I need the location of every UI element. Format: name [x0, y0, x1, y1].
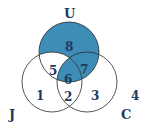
set-label-u: U — [64, 6, 76, 21]
set-label-j: J — [8, 107, 15, 122]
region-2-label: 2 — [64, 90, 72, 104]
region-5-label: 5 — [49, 64, 57, 78]
region-7-label: 7 — [80, 63, 88, 77]
region-3-label: 3 — [91, 89, 99, 103]
venn-diagram: U J C 1 2 3 4 5 6 7 8 — [0, 0, 146, 127]
set-label-c: C — [121, 107, 131, 122]
region-1-label: 1 — [36, 89, 44, 103]
region-8-label: 8 — [65, 40, 73, 54]
region-6-label: 6 — [64, 73, 72, 87]
region-4-label: 4 — [131, 89, 139, 103]
